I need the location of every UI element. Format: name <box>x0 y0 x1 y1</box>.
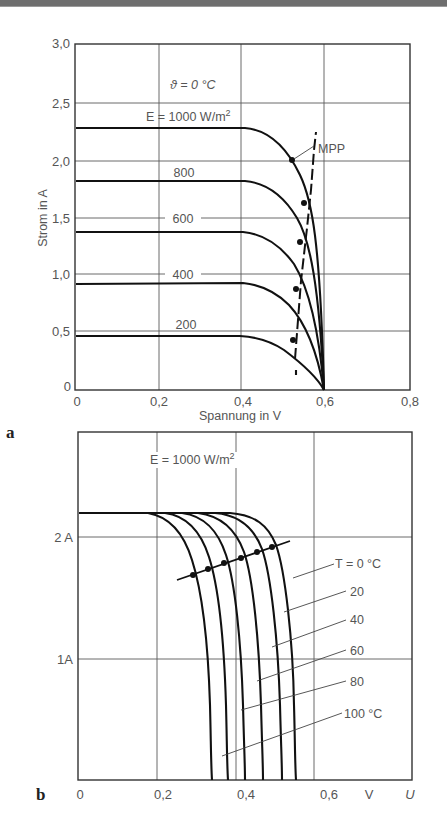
curve-t80 <box>79 513 228 780</box>
chart-b-curves <box>79 513 346 780</box>
chart-b-grid <box>78 432 412 780</box>
curve-label-400: 400 <box>173 268 194 282</box>
panel-label-a: a <box>6 423 15 442</box>
svg-text:0: 0 <box>76 787 83 802</box>
svg-text:0,2: 0,2 <box>154 787 172 802</box>
curve-t40 <box>79 513 263 780</box>
svg-text:0,2: 0,2 <box>150 394 168 409</box>
chart-a-ylabel: Strom in A <box>36 189 50 247</box>
e-annotation-b: E = 1000 W/m2 <box>150 451 235 467</box>
svg-text:0,6: 0,6 <box>320 787 338 802</box>
svg-text:2,5: 2,5 <box>52 96 70 111</box>
curve-label-200: 200 <box>176 318 197 332</box>
figure-canvas: 3,0 2,5 2,0 1,5 1,0 0,5 0 0 0,2 0,4 0,6 … <box>0 0 447 837</box>
curve-label-t60: 60 <box>350 644 364 658</box>
svg-text:2 A: 2 A <box>54 530 73 545</box>
curve-t60 <box>79 513 245 780</box>
curve-t100 <box>79 513 212 780</box>
svg-text:0,4: 0,4 <box>234 394 252 409</box>
x-variable: U <box>405 787 415 802</box>
curve-label-t0: T = 0 °C <box>335 557 381 571</box>
svg-text:1,5: 1,5 <box>52 211 70 226</box>
mpp-leader <box>294 146 314 159</box>
svg-text:0,4: 0,4 <box>237 787 255 802</box>
curve-label-t80: 80 <box>350 675 364 689</box>
curve-e600 <box>76 232 324 390</box>
curve-label-t100: 100 °C <box>344 707 382 721</box>
chart-a-curves <box>76 128 324 390</box>
chart-b-frame <box>78 432 412 780</box>
svg-text:0: 0 <box>64 379 71 394</box>
curve-label-t40: 40 <box>350 613 364 627</box>
svg-text:0,5: 0,5 <box>52 324 70 339</box>
svg-text:1A: 1A <box>57 652 73 667</box>
chart-a-xticks: 0 0,2 0,4 0,6 0,8 <box>73 394 419 409</box>
mpp-line <box>295 132 316 359</box>
curve-label-t20: 20 <box>350 585 364 599</box>
curve-t20 <box>79 513 282 780</box>
e-annotation-a: E = 1000 W/m2 <box>146 108 231 124</box>
svg-text:0,6: 0,6 <box>316 394 334 409</box>
svg-text:3,0: 3,0 <box>52 36 70 51</box>
theta-annotation: ϑ = 0 °C <box>170 78 217 92</box>
curve-label-600: 600 <box>173 212 194 226</box>
svg-text:1,0: 1,0 <box>52 267 70 282</box>
svg-text:2,0: 2,0 <box>52 154 70 169</box>
chart-a-grid <box>75 44 410 390</box>
mpp-label: MPP <box>318 142 345 156</box>
chart-a-frame <box>75 44 410 390</box>
curve-e1000 <box>76 128 324 390</box>
chart-b-xticks: 0 0,2 0,4 0,6 V U <box>76 787 415 802</box>
chart-a: 3,0 2,5 2,0 1,5 1,0 0,5 0 0 0,2 0,4 0,6 … <box>6 36 419 442</box>
chart-a-xlabel: Spannung in V <box>199 409 282 423</box>
curve-e200 <box>76 336 324 390</box>
x-unit: V <box>365 787 374 802</box>
chart-a-yticks: 3,0 2,5 2,0 1,5 1,0 0,5 0 <box>52 36 71 394</box>
curve-label-800: 800 <box>174 166 195 180</box>
chart-b-yticks: 2 A 1A <box>54 530 73 667</box>
chart-b: 2 A 1A 0 0,2 0,4 0,6 V U E = 1000 W/m2 T… <box>36 432 415 804</box>
svg-text:0: 0 <box>73 394 80 409</box>
panel-label-b: b <box>36 785 45 804</box>
svg-text:0,8: 0,8 <box>401 394 419 409</box>
